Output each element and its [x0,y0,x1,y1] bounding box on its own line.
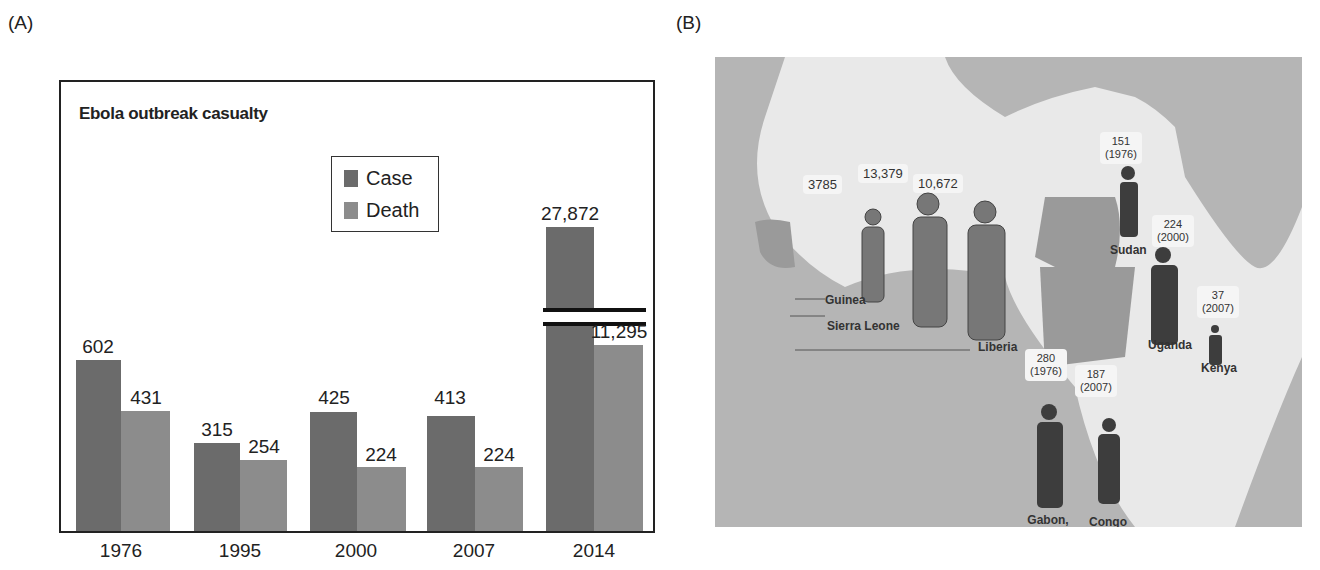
country-label-gabon-zaire: Gabon, Zaire [1024,513,1072,527]
bar-death-1976 [121,411,170,531]
value-label: 11,295 [579,321,659,343]
bar-death-2000 [357,467,406,531]
country-label-congo: Congo [1089,515,1127,527]
legend-swatch-case [344,170,358,187]
africa-map: 3785 13,379 10,672 151(1976) 224(2000) 3… [715,57,1302,527]
chart-title: Ebola outbreak casualty [79,104,268,124]
bar-death-1995 [240,460,287,531]
value-label: 224 [341,444,421,466]
panel-a-label: (A) [8,12,33,34]
legend-swatch-death [344,202,358,219]
panel-b-label: (B) [676,12,701,34]
bar-case-1976 [76,360,121,531]
person-icons [715,57,1302,527]
legend-label-case: Case [366,167,413,190]
value-label: 254 [224,436,304,458]
legend-item-case: Case [344,167,413,190]
x-tick-label: 1995 [200,540,280,562]
bar-case-2014 [546,227,594,531]
bar-chart-plot: Ebola outbreak casualty Case Death 602 4… [59,80,655,533]
country-label-guinea: Guinea [825,293,866,307]
value-label: 425 [294,387,374,409]
value-label: 224 [459,444,539,466]
bar-case-2007 [427,416,475,531]
country-label-kenya: Kenya [1201,361,1237,375]
legend-item-death: Death [344,199,419,222]
value-label: 431 [106,387,186,409]
value-label: 413 [410,387,490,409]
country-label-sierra-leone: Sierra Leone [827,319,900,333]
bar-death-2014 [594,345,643,531]
x-tick-label: 2014 [554,540,634,562]
x-tick-label: 1976 [81,540,161,562]
value-label: 602 [58,336,138,358]
chart-legend: Case Death [331,156,439,232]
x-tick-label: 2007 [434,540,514,562]
country-label-liberia: Liberia [978,340,1017,354]
value-label: 27,872 [530,203,610,225]
bar-death-2007 [475,467,523,531]
legend-label-death: Death [366,199,419,222]
country-label-uganda: Uganda [1148,338,1192,352]
x-tick-label: 2000 [316,540,396,562]
bar-case-2000 [310,412,357,531]
country-label-sudan: Sudan [1110,243,1147,257]
